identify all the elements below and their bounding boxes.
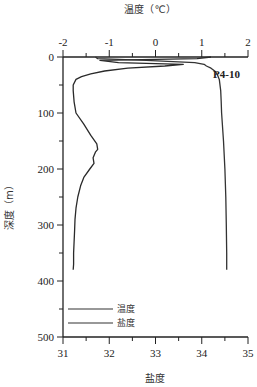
top-tick-label: 1 (199, 36, 205, 48)
station-label: P4-10 (213, 68, 240, 80)
axes: -2-101231323334350100200300400500 (38, 36, 255, 359)
top-tick-label: 0 (153, 36, 159, 48)
y-tick-label: 0 (49, 51, 55, 63)
y-tick-label: 100 (38, 107, 55, 119)
top-tick-label: 2 (245, 36, 251, 48)
top-axis-title: 温度（℃） (124, 3, 175, 15)
y-tick-label: 300 (38, 219, 55, 231)
bottom-tick-label: 35 (243, 347, 255, 359)
y-axis-title: 深度（m） (3, 180, 15, 230)
top-tick-label: -1 (105, 36, 114, 48)
legend-label: 盐度 (117, 317, 135, 328)
temperature-line (73, 57, 211, 270)
temperature-salinity-profile-chart: -2-101231323334350100200300400500 P4-10 … (0, 0, 257, 387)
bottom-tick-label: 34 (196, 347, 208, 359)
bottom-tick-label: 33 (150, 347, 162, 359)
y-tick-label: 200 (38, 163, 55, 175)
top-tick-label: -2 (58, 36, 67, 48)
legend-label: 温度 (117, 303, 135, 314)
y-tick-label: 500 (38, 331, 55, 343)
salinity-line (95, 57, 226, 270)
series-lines (73, 57, 227, 270)
y-tick-label: 400 (38, 275, 55, 287)
bottom-tick-label: 31 (58, 347, 69, 359)
legend: 温度盐度 (68, 303, 135, 328)
bottom-axis-title: 盐度 (145, 372, 165, 384)
bottom-tick-label: 32 (104, 347, 115, 359)
